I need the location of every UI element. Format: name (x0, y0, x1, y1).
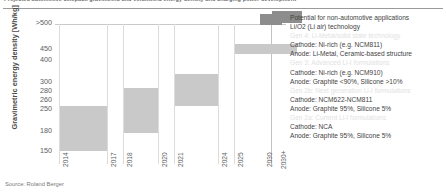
x-tick-label: 2025 (237, 152, 244, 167)
legend-block-gen3: Gen 3: Advanced Li-I formulations Cathod… (290, 58, 444, 85)
legend-block-lio2: Potential for non-automotive application… (290, 13, 444, 31)
header-divider (3, 8, 443, 9)
legend-line: Cathode: NCM622-NCM811 (290, 95, 444, 104)
x-tick-label: 2018 (126, 152, 133, 167)
source-note: Source: Roland Berger (5, 181, 64, 187)
gridline-2017 (107, 24, 108, 164)
gridline-2020 (158, 24, 159, 164)
bar-range-gen2a (60, 106, 107, 151)
legend-gen-title: Gen 2b: Next generation Li-I formulation… (290, 86, 444, 95)
legend-block-gen2b: Gen 2b: Next generation Li-I formulation… (290, 86, 444, 113)
legend-block-gen2a: Gen 2a: Current Li-I formulations Cathod… (290, 113, 444, 140)
bar-range-gen3 (175, 74, 218, 106)
legend-line: Anode: Graphite 95%, Silicone 5% (290, 104, 444, 113)
gridline-2024 (218, 24, 219, 164)
legend-gen-title: Gen 3: Advanced Li-I formulations (290, 58, 444, 67)
legend-line: Potential for non-automotive application… (290, 13, 444, 22)
x-tick-label: 2024 (221, 152, 228, 167)
legend: Potential for non-automotive application… (290, 13, 444, 140)
legend-line: Cathode: Ni-rich (e.g. NCM910) (290, 68, 444, 77)
y-tick-label: 300 (18, 78, 52, 85)
y-tick-label: 150 (18, 147, 52, 154)
legend-line: Anode: Li-Metal, Ceramic-based structure (290, 49, 444, 58)
legend-line: Cathode: Ni-rich (e.g. NCM811) (290, 40, 444, 49)
legend-line: Li/O2 (Li air) technology (290, 22, 444, 31)
x-tick-label: 2030+ (280, 150, 287, 169)
y-tick-label: 450 (18, 45, 52, 52)
y-tick-label: 400 (18, 56, 52, 63)
page-title: Projected automotive cell/pack gravimetr… (4, 0, 442, 2)
x-tick-label: 2017 (110, 152, 117, 167)
y-tick-label: 260 (18, 96, 52, 103)
y-tick-label: 250 (18, 105, 52, 112)
legend-swatch-lio2 (260, 14, 282, 25)
legend-line: Anode: Graphite 95%, Silicone 5% (290, 131, 444, 140)
axis-top-line (55, 24, 286, 25)
legend-line: Cathode: NCA (290, 122, 444, 131)
legend-line: Anode: Graphite <90%, Silicone >10% (290, 77, 444, 86)
x-tick-label: 2014 (62, 152, 69, 167)
y-tick-label: >500 (18, 19, 52, 26)
bar-range-gen4 (235, 44, 297, 54)
x-tick-label: 2020 (161, 152, 168, 167)
legend-block-gen4: Gen 4: Li-Metal/solid state technology C… (290, 31, 444, 58)
chart-area: Gravimetric energy density [Wh/kg] >500 … (0, 11, 288, 173)
y-tick-label: 280 (18, 87, 52, 94)
chart-page: Projected automotive cell/pack gravimetr… (0, 0, 446, 195)
legend-gen-title: Gen 2a: Current Li-I formulations (290, 113, 444, 122)
y-tick-label: 180 (18, 127, 52, 134)
x-tick-label: 2021 (177, 152, 184, 167)
bar-range-gen2b (124, 88, 158, 133)
x-tick-label: 2030 (266, 152, 273, 167)
legend-gen-title: Gen 4: Li-Metal/solid state technology (290, 31, 444, 40)
